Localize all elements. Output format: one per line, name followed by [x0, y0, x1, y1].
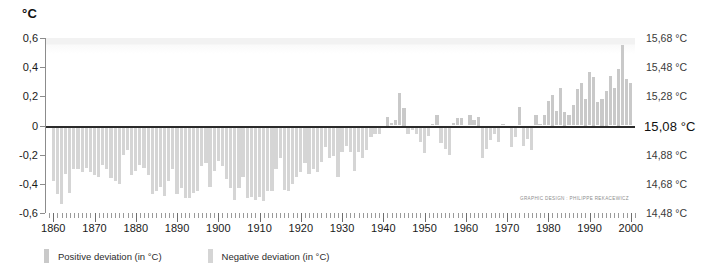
bar: [530, 126, 533, 151]
bar: [551, 95, 554, 126]
x-axis-minor-tick: [540, 213, 541, 218]
bar: [468, 115, 471, 125]
x-axis-tick-label: 1970: [495, 222, 519, 234]
bar: [130, 126, 133, 176]
bar: [287, 126, 290, 192]
x-axis-minor-tick: [231, 213, 232, 218]
x-axis-minor-tick: [544, 213, 545, 218]
x-axis-minor-tick: [272, 213, 273, 218]
x-axis-minor-tick: [222, 213, 223, 218]
x-axis-minor-tick: [387, 213, 388, 218]
bar: [402, 108, 405, 126]
x-axis-minor-tick: [214, 213, 215, 218]
x-axis-minor-tick: [227, 213, 228, 218]
x-axis-minor-tick: [552, 213, 553, 218]
x-axis-minor-tick: [499, 213, 500, 218]
right-axis-tick-label: 14,48 °C: [646, 207, 687, 219]
bar: [398, 93, 401, 125]
x-axis-minor-tick: [66, 213, 67, 218]
x-axis-tick-label: 1980: [536, 222, 560, 234]
bar: [460, 118, 463, 125]
y-axis-tick-label: -0,2: [0, 149, 38, 161]
x-axis-major-tick: [95, 213, 96, 222]
right-axis-tick-label: 15,28 °C: [646, 90, 687, 102]
x-axis-minor-tick: [235, 213, 236, 218]
legend-label: Negative deviation (in °C): [222, 251, 330, 262]
x-axis-tick-label: 1920: [289, 222, 313, 234]
bar: [332, 126, 335, 157]
x-axis-minor-tick: [437, 213, 438, 218]
y-axis-line: [45, 38, 46, 213]
x-axis-minor-tick: [354, 213, 355, 218]
x-axis-major-tick: [466, 213, 467, 222]
bar: [151, 126, 154, 195]
x-axis-minor-tick: [623, 213, 624, 218]
x-axis-major-tick: [342, 213, 343, 222]
bar: [621, 45, 624, 125]
x-axis-minor-tick: [86, 213, 87, 218]
bar: [217, 126, 220, 161]
bar: [559, 88, 562, 126]
x-axis-minor-tick: [491, 213, 492, 218]
x-axis-minor-tick: [561, 213, 562, 218]
x-axis-major-tick: [260, 213, 261, 222]
bar: [336, 126, 339, 177]
bar: [312, 126, 315, 170]
x-axis-tick-label: 1870: [82, 222, 106, 234]
bar: [254, 126, 257, 200]
x-axis-minor-tick: [198, 213, 199, 218]
x-axis-minor-tick: [359, 213, 360, 218]
bar: [629, 83, 632, 125]
bar: [596, 102, 599, 125]
x-axis-minor-tick: [618, 213, 619, 218]
bar: [142, 126, 145, 168]
x-axis-minor-tick: [614, 213, 615, 218]
bar: [592, 77, 595, 125]
bar: [81, 126, 84, 173]
x-axis-minor-tick: [532, 213, 533, 218]
x-axis-minor-tick: [511, 213, 512, 218]
x-axis-minor-tick: [173, 213, 174, 218]
bar: [510, 126, 513, 148]
bar: [258, 126, 261, 197]
x-axis-minor-tick: [202, 213, 203, 218]
bar: [353, 126, 356, 171]
x-axis-minor-tick: [115, 213, 116, 218]
bar: [547, 101, 550, 126]
legend-swatch: [44, 249, 49, 263]
x-axis-major-tick: [425, 213, 426, 222]
bar: [588, 72, 591, 126]
x-axis-minor-tick: [486, 213, 487, 218]
x-axis-major-tick: [177, 213, 178, 222]
bar: [605, 91, 608, 126]
x-axis-minor-tick: [326, 213, 327, 218]
bar: [283, 126, 286, 190]
bar: [114, 126, 117, 181]
x-axis-tick-label: 1890: [165, 222, 189, 234]
x-axis-minor-tick: [111, 213, 112, 218]
x-axis-minor-tick: [123, 213, 124, 218]
bar: [184, 126, 187, 199]
bar: [118, 126, 121, 184]
x-axis-minor-tick: [90, 213, 91, 218]
x-axis-minor-tick: [482, 213, 483, 218]
bar: [138, 126, 141, 165]
bar: [299, 126, 302, 173]
legend-item-negative: Negative deviation (in °C): [208, 249, 330, 263]
bar: [175, 126, 178, 195]
x-axis-minor-tick: [453, 213, 454, 218]
x-axis-minor-tick: [49, 213, 50, 218]
bar: [279, 126, 282, 158]
x-axis-minor-tick: [144, 213, 145, 218]
bar: [345, 126, 348, 146]
x-axis-minor-tick: [598, 213, 599, 218]
left-axis-labels: 0,60,40,20-0,2-0,4-0,6: [0, 0, 38, 274]
bar: [76, 126, 79, 170]
x-axis-major-tick: [507, 213, 508, 222]
x-axis-minor-tick: [148, 213, 149, 218]
bar: [134, 126, 137, 171]
x-axis-minor-tick: [78, 213, 79, 218]
y-axis-tick: [40, 184, 45, 185]
bar: [72, 126, 75, 170]
bar: [204, 126, 207, 164]
